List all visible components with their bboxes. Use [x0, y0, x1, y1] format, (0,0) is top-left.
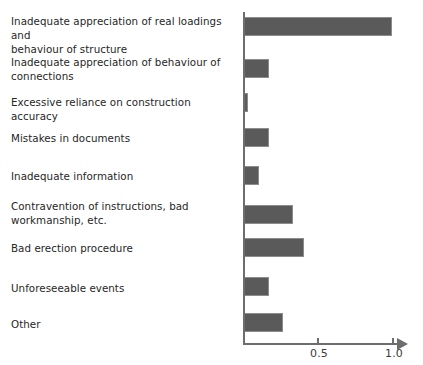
- category-label-line: Inadequate information: [11, 169, 239, 183]
- bar: [244, 205, 293, 224]
- y-axis-line: [243, 12, 245, 344]
- category-label-line: workmanship, etc.: [11, 213, 239, 227]
- bar: [244, 313, 283, 332]
- x-axis-tick-label-1-0: 1.0: [385, 347, 403, 360]
- bar: [244, 238, 304, 257]
- category-label: Contravention of instructions, badworkma…: [11, 199, 239, 227]
- bar: [244, 166, 259, 185]
- bar: [244, 128, 269, 147]
- category-label: Inadequate information: [11, 169, 239, 183]
- x-axis-tick-1-0: [392, 338, 394, 344]
- bar: [244, 93, 248, 112]
- x-axis-tick-0-5: [317, 338, 319, 344]
- x-axis-tick-label-0-5: 0.5: [310, 347, 328, 360]
- bar: [244, 17, 392, 36]
- category-label-line: Mistakes in documents: [11, 131, 239, 145]
- category-label-line: connections: [11, 69, 239, 83]
- plot-area: Inadequate appreciation of real loadings…: [0, 0, 423, 365]
- category-label: Unforeseeable events: [11, 281, 239, 295]
- category-label: Inadequate appreciation of real loadings…: [11, 14, 239, 56]
- category-label-line: behaviour of structure: [11, 42, 239, 56]
- category-label: Other: [11, 317, 239, 331]
- category-label-line: Excessive reliance on construction accur…: [11, 95, 239, 123]
- horizontal-bar-chart: Inadequate appreciation of real loadings…: [0, 0, 423, 365]
- category-label: Bad erection procedure: [11, 241, 239, 255]
- category-label-line: Other: [11, 317, 239, 331]
- category-label-line: Contravention of instructions, bad: [11, 199, 239, 213]
- x-axis-line: [243, 343, 403, 345]
- bar: [244, 277, 269, 296]
- category-label-line: Bad erection procedure: [11, 241, 239, 255]
- category-label-line: Unforeseeable events: [11, 281, 239, 295]
- bar: [244, 59, 269, 78]
- category-label-line: Inadequate appreciation of behaviour of: [11, 55, 239, 69]
- category-label: Mistakes in documents: [11, 131, 239, 145]
- category-label: Inadequate appreciation of behaviour ofc…: [11, 55, 239, 83]
- category-label: Excessive reliance on construction accur…: [11, 95, 239, 123]
- category-label-line: Inadequate appreciation of real loadings…: [11, 14, 239, 42]
